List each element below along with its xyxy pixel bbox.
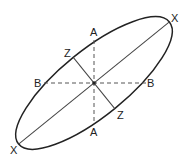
label-x-top: X	[171, 12, 179, 24]
label-z-bottom: Z	[117, 109, 124, 121]
label-b-right: B	[147, 77, 154, 89]
ellipse-diagram: X X A A B B Z Z	[0, 0, 193, 166]
label-b-left: B	[34, 77, 41, 89]
label-a-bottom: A	[90, 126, 98, 138]
label-a-top: A	[90, 26, 98, 38]
label-z-top: Z	[64, 47, 71, 59]
label-x-bottom: X	[10, 144, 18, 156]
center-point	[92, 81, 96, 85]
